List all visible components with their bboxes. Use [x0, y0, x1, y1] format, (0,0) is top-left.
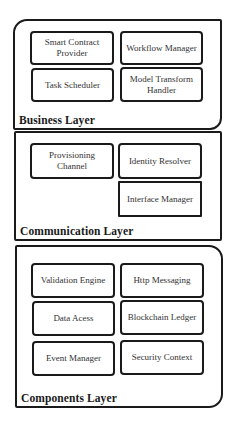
model-transform-handler-box: Model Transform Handler — [120, 67, 203, 102]
provisioning-channel-box: Provisioning Channel — [30, 143, 114, 179]
security-context-box: Security Context — [120, 340, 204, 375]
identity-resolver-box: Identity Resolver — [118, 143, 202, 179]
interface-manager-box: Interface Manager — [118, 181, 202, 217]
event-manager-box: Event Manager — [32, 341, 115, 376]
blockchain-ledger-box: Blockchain Ledger — [120, 300, 204, 335]
components-layer: Validation Engine Http Messaging Data Ac… — [15, 245, 223, 408]
business-layer: Smart Contract Provider Workflow Manager… — [13, 19, 222, 130]
validation-engine-box: Validation Engine — [31, 263, 115, 298]
task-scheduler-box: Task Scheduler — [31, 68, 114, 102]
business-layer-label: Business Layer — [19, 114, 95, 126]
data-access-box: Data Acess — [32, 301, 115, 336]
http-messaging-box: Http Messaging — [120, 263, 204, 298]
workflow-manager-box: Workflow Manager — [120, 31, 203, 65]
communication-layer-label: Communication Layer — [20, 225, 133, 237]
smart-contract-provider-box: Smart Contract Provider — [30, 31, 114, 65]
components-layer-label: Components Layer — [21, 392, 117, 404]
communication-layer: Provisioning Channel Identity Resolver I… — [14, 131, 222, 241]
